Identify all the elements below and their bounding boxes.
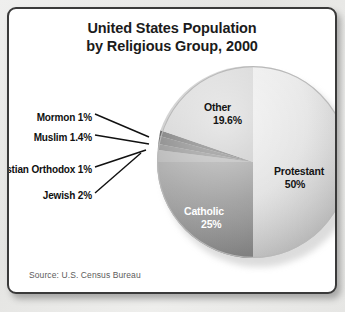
slice-label-muslim: Muslim 1.4% xyxy=(34,132,92,143)
slice-label-catholic-value: 25% xyxy=(201,218,224,231)
slice-label-catholic-name: Catholic xyxy=(184,205,224,217)
leader-line-mormon xyxy=(95,114,149,137)
slice-label-other-name: Other xyxy=(204,101,231,113)
slice-label-protestant-name: Protestant xyxy=(274,165,324,177)
chart-title-line-1: United States Population xyxy=(87,20,256,36)
slice-label-other-value: 19.6% xyxy=(213,114,242,127)
slice-label-protestant: Protestant 50% xyxy=(274,165,324,191)
page-title: United States Population by Religious Gr… xyxy=(9,19,335,55)
chart-panel: United States Population by Religious Gr… xyxy=(7,7,337,294)
leader-line-jewish xyxy=(95,153,141,193)
leader-line-christian-orthodox xyxy=(95,150,146,167)
slice-label-catholic: Catholic 25% xyxy=(184,205,224,231)
slice-label-mormon: Mormon 1% xyxy=(37,112,92,123)
leader-line-muslim xyxy=(95,135,149,144)
source-note: Source: U.S. Census Bureau xyxy=(29,270,141,280)
chart-title-line-2: by Religious Group, 2000 xyxy=(9,37,335,55)
slice-label-protestant-value: 50% xyxy=(274,178,316,191)
slice-label-christian-orthodox: Christian Orthodox 1% xyxy=(7,164,92,175)
slice-label-other: Other 19.6% xyxy=(204,101,242,127)
slice-label-jewish: Jewish 2% xyxy=(43,190,92,201)
